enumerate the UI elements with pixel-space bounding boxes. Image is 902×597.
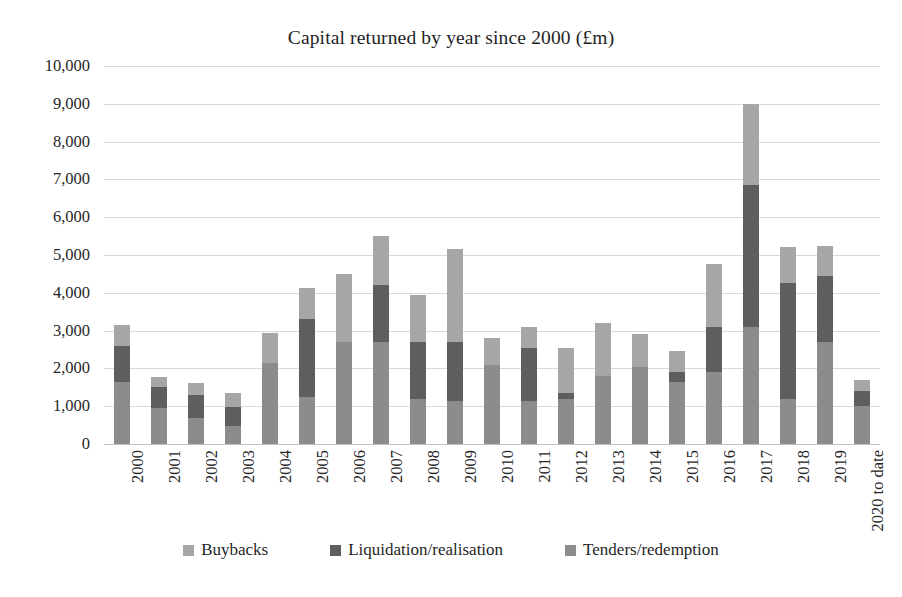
bar-segment[interactable] (151, 387, 167, 408)
bar-segment[interactable] (817, 246, 833, 276)
bar-group[interactable] (843, 66, 880, 444)
bar-segment[interactable] (595, 323, 611, 376)
bar-segment[interactable] (780, 283, 796, 398)
bar-segment[interactable] (706, 372, 722, 444)
bar-segment[interactable] (299, 319, 315, 396)
stacked-bar[interactable] (854, 380, 870, 444)
bar-segment[interactable] (669, 382, 685, 444)
bar-group[interactable] (141, 66, 178, 444)
bar-segment[interactable] (373, 236, 389, 285)
bar-group[interactable] (252, 66, 289, 444)
bar-segment[interactable] (854, 406, 870, 444)
bar-segment[interactable] (410, 342, 426, 399)
bar-group[interactable] (437, 66, 474, 444)
bar-segment[interactable] (595, 376, 611, 444)
bar-segment[interactable] (410, 295, 426, 342)
stacked-bar[interactable] (817, 246, 833, 444)
bar-segment[interactable] (558, 348, 574, 393)
bar-segment[interactable] (817, 342, 833, 444)
bar-segment[interactable] (225, 407, 241, 426)
bar-segment[interactable] (484, 338, 500, 364)
stacked-bar[interactable] (669, 351, 685, 444)
stacked-bar[interactable] (447, 249, 463, 444)
stacked-bar[interactable] (410, 295, 426, 444)
bar-group[interactable] (215, 66, 252, 444)
bar-segment[interactable] (780, 247, 796, 283)
legend-item[interactable]: Tenders/redemption (565, 540, 719, 560)
bar-segment[interactable] (373, 342, 389, 444)
stacked-bar[interactable] (595, 323, 611, 444)
bar-group[interactable] (547, 66, 584, 444)
bar-segment[interactable] (151, 408, 167, 444)
bar-group[interactable] (769, 66, 806, 444)
bar-segment[interactable] (743, 185, 759, 327)
bar-segment[interactable] (521, 348, 537, 401)
bar-segment[interactable] (632, 334, 648, 366)
stacked-bar[interactable] (706, 264, 722, 444)
bar-segment[interactable] (743, 104, 759, 185)
stacked-bar[interactable] (262, 333, 278, 445)
bar-segment[interactable] (632, 367, 648, 444)
stacked-bar[interactable] (743, 104, 759, 444)
bar-segment[interactable] (225, 426, 241, 444)
bar-group[interactable] (178, 66, 215, 444)
bar-segment[interactable] (521, 401, 537, 444)
stacked-bar[interactable] (558, 348, 574, 444)
bar-segment[interactable] (743, 327, 759, 444)
bar-group[interactable] (400, 66, 437, 444)
bar-segment[interactable] (373, 285, 389, 342)
stacked-bar[interactable] (188, 383, 204, 444)
stacked-bar[interactable] (373, 236, 389, 444)
bar-segment[interactable] (521, 327, 537, 348)
legend-item[interactable]: Liquidation/realisation (330, 540, 503, 560)
bar-group[interactable] (326, 66, 363, 444)
stacked-bar[interactable] (336, 274, 352, 444)
bar-segment[interactable] (817, 276, 833, 342)
stacked-bar[interactable] (780, 247, 796, 444)
bar-segment[interactable] (188, 383, 204, 395)
bar-segment[interactable] (114, 325, 130, 346)
stacked-bar[interactable] (225, 393, 241, 444)
bar-segment[interactable] (854, 391, 870, 406)
bar-segment[interactable] (225, 393, 241, 407)
bar-segment[interactable] (669, 351, 685, 372)
bar-group[interactable] (695, 66, 732, 444)
bar-segment[interactable] (336, 274, 352, 342)
bar-group[interactable] (658, 66, 695, 444)
bar-segment[interactable] (188, 418, 204, 444)
bar-segment[interactable] (706, 327, 722, 372)
bar-group[interactable] (363, 66, 400, 444)
bar-segment[interactable] (669, 372, 685, 381)
bar-segment[interactable] (447, 342, 463, 401)
bar-segment[interactable] (299, 288, 315, 319)
bar-segment[interactable] (262, 363, 278, 444)
bar-segment[interactable] (336, 342, 352, 444)
bar-segment[interactable] (780, 399, 796, 444)
stacked-bar[interactable] (521, 327, 537, 444)
bar-segment[interactable] (151, 377, 167, 388)
bar-group[interactable] (732, 66, 769, 444)
bar-segment[interactable] (854, 380, 870, 391)
stacked-bar[interactable] (299, 288, 315, 444)
bar-group[interactable] (584, 66, 621, 444)
bar-segment[interactable] (410, 399, 426, 444)
bar-segment[interactable] (114, 382, 130, 444)
bar-group[interactable] (806, 66, 843, 444)
bar-group[interactable] (104, 66, 141, 444)
legend-item[interactable]: Buybacks (183, 540, 268, 560)
bar-segment[interactable] (484, 365, 500, 444)
stacked-bar[interactable] (484, 338, 500, 444)
bar-segment[interactable] (447, 401, 463, 444)
bar-group[interactable] (621, 66, 658, 444)
bar-segment[interactable] (706, 264, 722, 326)
bar-segment[interactable] (447, 249, 463, 342)
stacked-bar[interactable] (632, 334, 648, 444)
stacked-bar[interactable] (114, 325, 130, 444)
bar-group[interactable] (510, 66, 547, 444)
bar-segment[interactable] (558, 399, 574, 444)
bar-segment[interactable] (299, 397, 315, 444)
bar-segment[interactable] (188, 395, 204, 418)
bar-group[interactable] (289, 66, 326, 444)
bar-segment[interactable] (262, 333, 278, 363)
bar-segment[interactable] (114, 346, 130, 382)
